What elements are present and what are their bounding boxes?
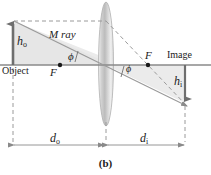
object-height-subscript: o bbox=[23, 40, 27, 49]
image-height-subscript: i bbox=[180, 80, 182, 89]
lens-ray-diagram-figure: ho hi M ray ϕ ϕ F F Object Image do di (… bbox=[0, 0, 211, 175]
angle-right-label: ϕ bbox=[126, 64, 131, 74]
focal-point-right-label: F bbox=[145, 50, 152, 61]
angle-left-label: ϕ bbox=[68, 51, 74, 62]
focal-point-left-label: F bbox=[50, 67, 57, 78]
object-label: Object bbox=[2, 66, 29, 76]
image-height-label: hi bbox=[174, 75, 182, 89]
image-distance-subscript: i bbox=[146, 137, 148, 146]
focal-point-left-marker bbox=[58, 63, 62, 67]
object-height-label: ho bbox=[17, 35, 27, 49]
image-label: Image bbox=[167, 50, 192, 60]
object-distance-subscript: o bbox=[56, 137, 60, 146]
refracted-ray-through-focal-point bbox=[106, 21, 186, 105]
object-distance-label: do bbox=[50, 132, 60, 146]
focal-point-right-marker bbox=[146, 63, 150, 67]
m-ray-label: M ray bbox=[49, 29, 76, 40]
image-distance-label: di bbox=[140, 132, 148, 146]
figure-caption: (b) bbox=[0, 158, 211, 169]
